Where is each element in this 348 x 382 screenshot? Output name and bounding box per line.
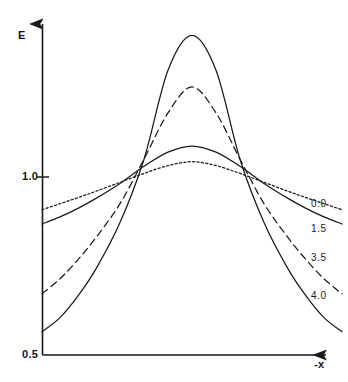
chart-figure: E 1.0 0.5 -x 0.0 1.5 3.5 4.0 — [0, 0, 348, 382]
chart-plot-area — [0, 0, 348, 382]
y-axis-tick-label-1-0: 1.0 — [22, 171, 38, 182]
y-axis-tick-label-0-5: 0.5 — [22, 349, 38, 360]
curve-1-5 — [42, 146, 342, 224]
x-axis-label: -x — [314, 359, 324, 370]
curve-0-0 — [42, 162, 342, 210]
curve-4-0 — [42, 35, 342, 332]
curve-label-3-5: 3.5 — [311, 253, 327, 263]
curve-label-4-0: 4.0 — [311, 291, 327, 301]
curve-label-0-0: 0.0 — [311, 199, 327, 209]
curve-label-1-5: 1.5 — [311, 224, 327, 234]
chart-curves — [42, 35, 342, 332]
curve-3-5 — [42, 87, 342, 294]
y-axis-label: E — [18, 30, 26, 41]
